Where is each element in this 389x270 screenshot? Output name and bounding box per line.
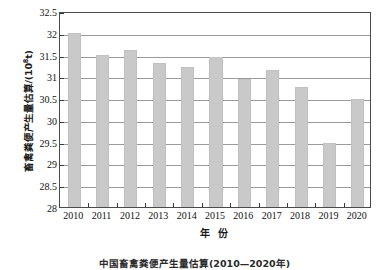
bar [68, 33, 81, 207]
x-axis-title: 年 份 [59, 225, 371, 240]
y-axis-tick-label: 32 [26, 28, 57, 39]
bar [96, 55, 109, 207]
x-axis-tick-label: 2017 [262, 210, 282, 221]
x-axis-tick-label: 2011 [92, 210, 112, 221]
y-axis-tick-labels: 32.53231.53130.53029.52928.528 [26, 12, 57, 208]
y-axis-tick-label: 32.5 [26, 7, 57, 18]
y-axis-tick-label: 28 [26, 203, 57, 214]
x-axis-tick-label: 2012 [120, 210, 140, 221]
y-axis-tick-label: 30.5 [26, 94, 57, 105]
x-axis-tick-label: 2018 [290, 210, 310, 221]
x-axis-tick-label: 2019 [318, 210, 338, 221]
y-axis-tick-label: 31 [26, 72, 57, 83]
x-axis-tick-label: 2020 [347, 210, 367, 221]
x-axis-tick-label: 2016 [233, 210, 253, 221]
bar [238, 79, 251, 207]
figure-caption: 中国畜禽粪便产生量估算(2010—2020年) [0, 256, 389, 270]
x-axis-tick-label: 2014 [177, 210, 197, 221]
y-axis-tick-label: 31.5 [26, 50, 57, 61]
bar [323, 143, 336, 207]
bar [351, 99, 364, 207]
bar [124, 50, 137, 207]
x-axis-tick-labels: 2010201120122013201420152016201720182019… [59, 210, 371, 226]
y-axis-tick-label: 29 [26, 159, 57, 170]
plot-area [59, 12, 371, 208]
bar [181, 67, 194, 207]
bar [209, 57, 222, 207]
bar [266, 70, 279, 207]
bar-series [60, 13, 370, 207]
bar [153, 63, 166, 207]
y-axis-tick-label: 28.5 [26, 181, 57, 192]
x-axis-tick-label: 2015 [205, 210, 225, 221]
bar [295, 87, 308, 207]
y-axis-tick-label: 30 [26, 115, 57, 126]
x-axis-tick-label: 2010 [63, 210, 83, 221]
x-axis-tick-label: 2013 [148, 210, 168, 221]
y-axis-tick-label: 29.5 [26, 137, 57, 148]
